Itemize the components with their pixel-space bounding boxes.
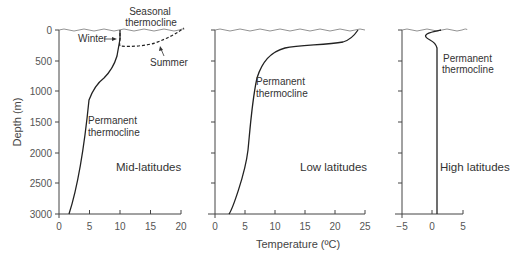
mid-permanent-thermocline-label: Permanent <box>88 115 137 126</box>
panel-low-latitudes: 0 5 10 15 20 25 Temperature (ºC) Permane… <box>208 29 371 250</box>
y-tick-labels: 0 500 1000 1500 2000 2500 3000 <box>30 25 53 220</box>
svg-text:3000: 3000 <box>30 209 53 220</box>
svg-text:1000: 1000 <box>30 86 53 97</box>
panel-mid-latitudes: 0 5 10 15 20 Seasonal thermocline Winter… <box>55 6 188 232</box>
svg-text:10: 10 <box>114 221 126 232</box>
svg-text:5: 5 <box>460 221 466 232</box>
svg-text:20: 20 <box>175 221 187 232</box>
svg-text:2500: 2500 <box>30 178 53 189</box>
x-axis-title: Temperature (ºC) <box>256 238 340 250</box>
svg-text:15: 15 <box>299 221 311 232</box>
sea-surface-wave <box>402 29 467 31</box>
sea-surface-wave <box>215 29 365 31</box>
high-x-tick-labels: −5 0 5 <box>396 221 466 232</box>
svg-text:0: 0 <box>46 25 52 36</box>
low-profile-line <box>229 30 358 214</box>
mid-latitudes-label: Mid-latitudes <box>116 161 181 173</box>
summer-label: Summer <box>150 57 188 68</box>
winter-label: Winter <box>78 33 108 44</box>
svg-text:25: 25 <box>359 221 371 232</box>
y-axis-title: Depth (m) <box>11 98 23 147</box>
svg-text:5: 5 <box>242 221 248 232</box>
high-permanent-thermocline-label: Permanent <box>443 53 492 64</box>
ocean-temperature-profiles-chart: Depth (m) 0 500 1000 1500 2000 2500 3000 <box>0 0 515 263</box>
svg-text:0: 0 <box>56 221 62 232</box>
low-axes <box>208 30 365 218</box>
svg-text:−5: −5 <box>396 221 408 232</box>
high-latitudes-label: High latitudes <box>440 161 510 173</box>
low-permanent-thermocline-label: Permanent <box>256 76 305 87</box>
svg-text:20: 20 <box>329 221 341 232</box>
sea-surface-wave <box>59 29 184 31</box>
svg-text:10: 10 <box>269 221 281 232</box>
svg-text:0: 0 <box>429 221 435 232</box>
mid-permanent-thermocline-label-2: thermocline <box>88 127 140 138</box>
svg-text:5: 5 <box>87 221 93 232</box>
mid-x-tick-labels: 0 5 10 15 20 <box>56 221 187 232</box>
svg-text:2000: 2000 <box>30 148 53 159</box>
svg-text:500: 500 <box>35 56 52 67</box>
seasonal-thermocline-label-2: thermocline <box>125 17 177 28</box>
panel-high-latitudes: −5 0 5 Permanent thermocline High latitu… <box>395 29 510 232</box>
low-x-tick-labels: 0 5 10 15 20 25 <box>212 221 371 232</box>
low-permanent-thermocline-label-2: thermocline <box>256 88 308 99</box>
high-profile-line <box>426 30 441 214</box>
high-permanent-thermocline-label-2: thermocline <box>442 64 494 75</box>
svg-text:15: 15 <box>145 221 157 232</box>
svg-text:0: 0 <box>212 221 218 232</box>
svg-text:1500: 1500 <box>30 117 53 128</box>
seasonal-thermocline-label: Seasonal <box>129 6 171 17</box>
low-latitudes-label: Low latitudes <box>300 161 367 173</box>
